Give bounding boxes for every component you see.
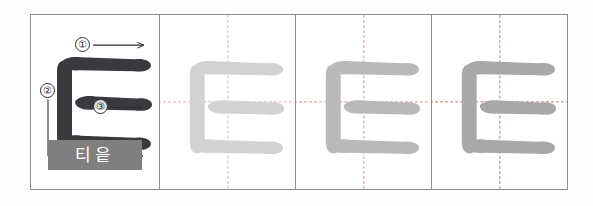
stroke-number-2: ② [40,83,55,98]
model-panel: ① ② ③ 티읕 [31,15,159,189]
letter-name-text: 티읕 [75,147,115,164]
stroke-number-1: ① [75,37,90,52]
letter-name-chip: 티읕 [48,140,142,170]
worksheet-sheet: ① ② ③ 티읕 [0,0,593,206]
trace-glyph-tieut [160,15,295,189]
worksheet-frame: ① ② ③ 티읕 [30,14,568,190]
trace-panel-1[interactable] [159,15,295,189]
stroke-number-3: ③ [93,99,108,114]
trace-glyph-tieut [432,15,567,189]
trace-panel-3[interactable] [431,15,567,189]
trace-panel-2[interactable] [295,15,431,189]
trace-glyph-tieut [296,15,431,189]
